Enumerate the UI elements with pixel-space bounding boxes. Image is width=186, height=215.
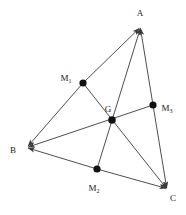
segment-side-AC-half-toward-A [141,29,154,105]
segment-side-AB-half-toward-A [83,28,139,83]
point-label-M1-subscript: 1 [69,78,72,84]
segment-median-C-to-M1 [83,83,166,188]
segment-median-B-to-M3 [28,105,153,147]
vertex-label-A: A [137,9,144,18]
segment-side-AB-half-toward-B [28,83,83,146]
geometry-figure: A B C M1 M2 M3 G [0,0,186,215]
point-marker-M2 [93,165,100,172]
point-label-M3-subscript: 3 [170,108,173,114]
point-label-M3-base: M [161,103,169,113]
point-label-M2-base: M [88,183,96,193]
point-label-M3: M3 [161,104,172,113]
point-label-M2-subscript: 2 [97,188,100,194]
vertex-label-B: B [10,146,16,155]
point-marker-G [108,116,116,124]
point-marker-M1 [79,79,86,86]
point-marker-M3 [149,101,156,108]
vertex-label-C: C [170,194,176,203]
segment-side-BC-half-toward-B [28,148,97,169]
point-label-M2: M2 [88,184,99,193]
point-label-M1: M1 [60,74,71,83]
point-label-G: G [105,105,112,114]
point-label-M1-base: M [60,73,68,83]
segment-side-AC-half-toward-C [153,105,167,188]
segment-side-BC-half-toward-C [97,169,166,188]
segments-group [28,28,167,188]
segment-median-A-to-M2 [97,29,140,170]
